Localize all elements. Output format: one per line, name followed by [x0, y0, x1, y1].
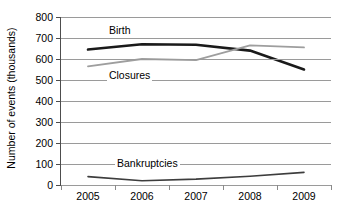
y-axis-tick-label: 800: [35, 11, 53, 23]
x-axis-tick-mark: [169, 185, 170, 190]
y-axis-tick-mark: [56, 101, 61, 102]
line-chart-figure: Number of events (thousands) 80070060050…: [0, 0, 339, 213]
y-axis-tick-label: 700: [35, 32, 53, 44]
series-label-birth: Birth: [107, 24, 133, 36]
y-axis-tick-label: 100: [35, 158, 53, 170]
x-axis-tick-mark: [277, 185, 278, 190]
y-axis-tick-label: 0: [47, 179, 53, 191]
y-axis-tick-mark: [56, 59, 61, 60]
series-label-closures: Closures: [107, 69, 152, 81]
y-axis-tick-mark: [56, 80, 61, 81]
plot-area: [61, 17, 331, 185]
gridline: [61, 17, 331, 18]
y-axis-tick-label: 400: [35, 95, 53, 107]
y-axis-tick-label: 500: [35, 74, 53, 86]
gridline: [61, 101, 331, 102]
x-axis-tick-label: 2009: [292, 190, 315, 202]
x-axis-tick-label: 2008: [238, 190, 261, 202]
x-axis-tick-label: 2005: [76, 190, 99, 202]
series-line-bankruptcies: [88, 172, 304, 180]
y-axis-tick-label: 600: [35, 53, 53, 65]
y-axis-tick-labels: 8007006005004003002001000: [22, 0, 57, 213]
y-axis-tick-mark: [56, 143, 61, 144]
gridline: [61, 164, 331, 165]
y-axis-tick-mark: [56, 164, 61, 165]
series-line-birth: [88, 44, 304, 69]
gridline: [61, 143, 331, 144]
x-axis-tick-mark: [223, 185, 224, 190]
y-axis-tick-label: 300: [35, 116, 53, 128]
gridline: [61, 59, 331, 60]
gridline: [61, 122, 331, 123]
gridline: [61, 38, 331, 39]
y-axis-tick-mark: [56, 17, 61, 18]
series-line-closures: [88, 45, 304, 66]
x-axis-tick-label: 2007: [184, 190, 207, 202]
x-axis-tick-mark: [115, 185, 116, 190]
y-axis-title: Number of events (thousands): [5, 27, 17, 168]
x-axis-tick-label: 2006: [130, 190, 153, 202]
gridline: [61, 185, 331, 186]
series-label-bankruptcies: Bankruptcies: [115, 157, 180, 169]
gridline: [61, 80, 331, 81]
y-axis-tick-mark: [56, 122, 61, 123]
y-axis-tick-mark: [56, 38, 61, 39]
x-axis-tick-mark: [61, 185, 62, 190]
y-axis-tick-label: 200: [35, 137, 53, 149]
y-axis-title-container: Number of events (thousands): [0, 0, 22, 195]
x-axis-tick-mark: [331, 185, 332, 190]
